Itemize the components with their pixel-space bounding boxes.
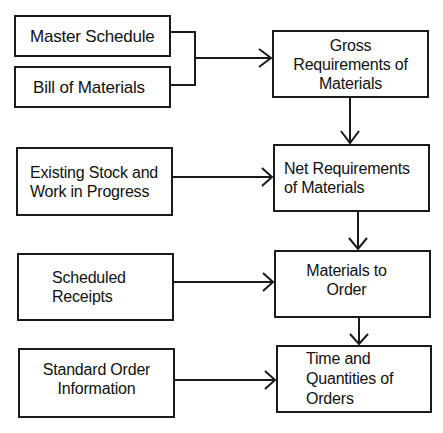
time-quantities-label: Time and Quantities of Orders xyxy=(306,349,393,409)
net-requirements-label: Net Requirements of Materials xyxy=(284,159,410,197)
scheduled-receipts-box: Scheduled Receipts xyxy=(17,253,174,321)
materials-to-order-label: Materials to Order xyxy=(306,261,386,299)
net-requirements-box: Net Requirements of Materials xyxy=(273,144,430,212)
standard-order-info-label: Standard Order Information xyxy=(43,360,150,398)
materials-to-order-box: Materials to Order xyxy=(274,250,431,318)
standard-order-info-box: Standard Order Information xyxy=(18,348,175,418)
gross-requirements-label: Gross Requirements of Materials xyxy=(293,36,407,93)
master-schedule-box: Master Schedule xyxy=(14,15,171,57)
existing-stock-label: Existing Stock and Work in Progress xyxy=(30,163,158,201)
master-schedule-label: Master Schedule xyxy=(30,27,155,46)
merge-bracket xyxy=(170,32,195,85)
time-quantities-box: Time and Quantities of Orders xyxy=(276,345,432,413)
gross-requirements-box: Gross Requirements of Materials xyxy=(272,30,429,98)
bill-of-materials-label: Bill of Materials xyxy=(33,78,145,97)
existing-stock-box: Existing Stock and Work in Progress xyxy=(16,147,173,216)
scheduled-receipts-label: Scheduled Receipts xyxy=(52,268,126,306)
bill-of-materials-box: Bill of Materials xyxy=(14,66,171,108)
